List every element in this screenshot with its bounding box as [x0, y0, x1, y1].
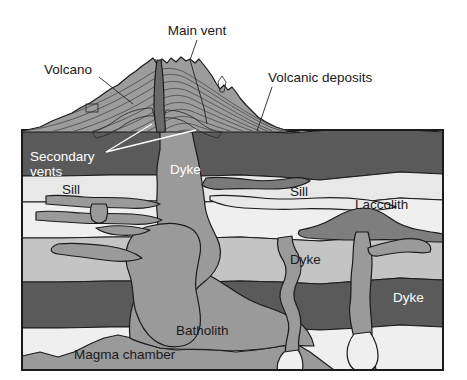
- label-sill-left: Sill: [62, 182, 80, 197]
- label-dyke-middle: Dyke: [290, 252, 321, 267]
- label-secondary-vents-line2: vents: [30, 164, 63, 179]
- label-main-vent: Main vent: [168, 23, 227, 38]
- label-secondary-vents-line1: Secondary: [30, 149, 95, 164]
- label-dyke-main: Dyke: [170, 162, 201, 177]
- geology-cross-section-svg: Main vent Volcano Volcanic deposits Seco…: [0, 0, 467, 380]
- label-volcano: Volcano: [44, 62, 92, 77]
- subsurface-block: [22, 128, 443, 372]
- label-sill-right: Sill: [290, 184, 308, 199]
- label-volcanic-deposits: Volcanic deposits: [268, 70, 373, 85]
- layer-midlight: [22, 234, 443, 284]
- label-laccolith: Laccolith: [355, 197, 408, 212]
- label-batholith: Batholith: [176, 323, 229, 338]
- sill-left-connector: [91, 204, 108, 223]
- dyke-right-base: [347, 332, 378, 372]
- label-dyke-right: Dyke: [393, 290, 424, 305]
- volcano-diagram: Main vent Volcano Volcanic deposits Seco…: [0, 0, 467, 380]
- label-magma-chamber: Magma chamber: [74, 347, 176, 362]
